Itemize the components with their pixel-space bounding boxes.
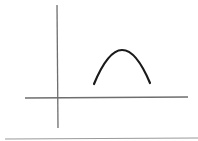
y-axis — [57, 5, 58, 128]
diagram-canvas — [0, 0, 198, 141]
bottom-divider-line — [5, 138, 198, 139]
x-axis — [25, 97, 188, 98]
parabola-arc — [94, 50, 150, 84]
